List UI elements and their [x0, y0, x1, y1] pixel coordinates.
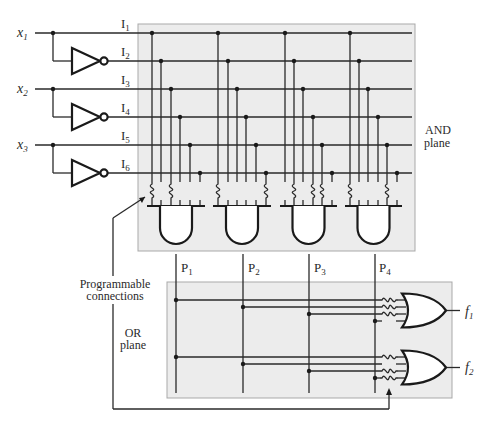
- inverter-icon: [72, 160, 100, 186]
- connection-dot: [51, 143, 55, 147]
- connection-dot: [235, 87, 239, 91]
- and-gate-icon: [226, 206, 258, 244]
- inverter-bubble: [100, 113, 107, 120]
- output-label-f2: f2: [465, 360, 474, 377]
- connection-dot: [241, 362, 245, 366]
- connection-dot: [348, 31, 352, 35]
- connection-dot: [178, 115, 182, 119]
- or-plane-label-2: plane: [120, 338, 146, 352]
- output-label-f1: f1: [465, 304, 473, 321]
- connection-dot: [366, 87, 370, 91]
- product-label-p1: P1: [181, 260, 193, 277]
- connection-dot: [244, 115, 248, 119]
- connection-dot: [226, 59, 230, 63]
- connection-dot: [357, 59, 361, 63]
- inverter-bubble: [100, 57, 107, 64]
- connection-dot: [174, 298, 178, 302]
- connection-dot: [320, 143, 324, 147]
- line-label-i4: I4: [121, 100, 130, 117]
- connection-dot: [373, 319, 377, 323]
- connection-dot: [254, 143, 258, 147]
- and-gate-icon: [358, 206, 390, 244]
- pla-diagram: x1 x2 x3 I1 I2 I3 I4 I5 I6 P1 P2 P3 P4 f…: [0, 0, 501, 432]
- inverter-icon: [72, 48, 100, 74]
- product-label-p2: P2: [248, 260, 260, 277]
- connection-dot: [241, 305, 245, 309]
- connection-dot: [307, 312, 311, 316]
- inverter-bubble: [100, 169, 107, 176]
- line-label-i2: I2: [121, 44, 130, 61]
- inverter-icon: [72, 104, 100, 130]
- connection-dot: [264, 171, 268, 175]
- connection-dot: [216, 31, 220, 35]
- connection-dot: [174, 355, 178, 359]
- connection-dot: [51, 87, 55, 91]
- and-plane-label-2: plane: [424, 136, 450, 150]
- programmable-connections-label-2: connections: [86, 289, 144, 303]
- connection-dot: [198, 171, 202, 175]
- connection-dot: [292, 59, 296, 63]
- connection-dot: [301, 87, 305, 91]
- input-label-x2: x2: [16, 81, 28, 98]
- and-plane-label: AND: [425, 123, 451, 137]
- and-gate-icon: [160, 206, 192, 244]
- line-label-i1: I1: [121, 16, 130, 33]
- connection-dot: [169, 87, 173, 91]
- connection-dot: [150, 31, 154, 35]
- connection-dot: [51, 31, 55, 35]
- connection-dot: [311, 115, 315, 119]
- connection-dot: [283, 31, 287, 35]
- and-gate-icon: [293, 206, 325, 244]
- connection-dot: [188, 143, 192, 147]
- connection-dot: [385, 143, 389, 147]
- input-label-x1: x1: [16, 25, 28, 42]
- connection-dot: [373, 376, 377, 380]
- connection-dot: [307, 369, 311, 373]
- line-label-i3: I3: [121, 72, 130, 89]
- connection-dot: [395, 171, 399, 175]
- product-label-p3: P3: [314, 260, 326, 277]
- connection-dot: [376, 115, 380, 119]
- connection-dot: [330, 171, 334, 175]
- input-label-x3: x3: [16, 137, 28, 154]
- product-label-p4: P4: [379, 260, 391, 277]
- connection-dot: [159, 59, 163, 63]
- line-label-i6: I6: [121, 156, 130, 173]
- line-label-i5: I5: [121, 128, 130, 145]
